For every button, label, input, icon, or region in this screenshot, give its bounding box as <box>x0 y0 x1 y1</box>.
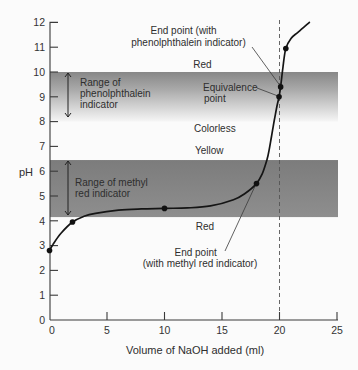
y-tick-label: 5 <box>39 190 45 202</box>
x-tick-label: 25 <box>331 324 343 336</box>
y-tick-label: 0 <box>39 314 45 326</box>
color-label-red-top: Red <box>193 59 211 70</box>
y-tick-label: 2 <box>39 264 45 276</box>
color-label-red-bottom: Red <box>196 221 214 232</box>
phenolphthalein-endpoint-label: End point (with phenolphthalein indicato… <box>131 25 246 48</box>
data-point <box>254 181 260 187</box>
x-tick-label: 20 <box>274 324 286 336</box>
y-tick-label: 9 <box>39 91 45 103</box>
color-label-colorless: Colorless <box>194 123 236 134</box>
x-tick-label: 0 <box>49 324 55 336</box>
y-tick-label: 7 <box>39 140 45 152</box>
y-tick-label: 4 <box>39 215 45 227</box>
titration-chart: 01234567891011120510152025 pH Volume of … <box>0 0 358 370</box>
x-axis-title: Volume of NaOH added (ml) <box>126 344 264 356</box>
y-tick-label: 1 <box>39 289 45 301</box>
data-point <box>47 248 53 254</box>
color-label-yellow: Yellow <box>195 145 224 156</box>
data-point <box>283 46 289 52</box>
y-tick-label: 6 <box>39 165 45 177</box>
y-tick-label: 8 <box>39 115 45 127</box>
data-point <box>276 94 282 100</box>
y-axis-title: pH <box>19 166 33 178</box>
x-tick-label: 15 <box>216 324 228 336</box>
x-tick-label: 10 <box>159 324 171 336</box>
y-tick-label: 10 <box>33 66 45 78</box>
data-point <box>70 219 76 225</box>
x-tick-label: 5 <box>104 324 110 336</box>
data-point <box>162 206 168 212</box>
y-tick-label: 3 <box>39 239 45 251</box>
data-point <box>278 84 284 90</box>
y-tick-label: 12 <box>33 16 45 28</box>
methyl-red-endpoint-label: End point (with methyl red indicator) <box>143 247 257 269</box>
y-tick-label: 11 <box>34 41 45 53</box>
